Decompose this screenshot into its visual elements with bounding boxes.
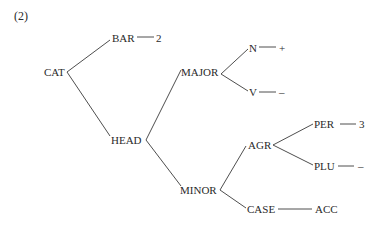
node-per: PER: [314, 118, 334, 130]
node-n: N: [249, 42, 257, 54]
node-head: HEAD: [111, 134, 142, 146]
example-number: (2): [14, 10, 28, 22]
value-plu: –: [358, 160, 364, 172]
value-per: 3: [359, 118, 365, 130]
value-bar: 2: [156, 32, 162, 44]
value-n: +: [279, 42, 285, 54]
node-major: MAJOR: [181, 66, 218, 78]
node-bar: BAR: [112, 32, 135, 44]
node-v: V: [249, 86, 257, 98]
value-case: ACC: [315, 203, 338, 215]
value-v: –: [279, 86, 285, 98]
node-case: CASE: [247, 203, 275, 215]
node-minor: MINOR: [180, 184, 217, 196]
node-cat: CAT: [44, 66, 65, 78]
node-agr: AGR: [248, 139, 271, 151]
node-plu: PLU: [314, 160, 335, 172]
